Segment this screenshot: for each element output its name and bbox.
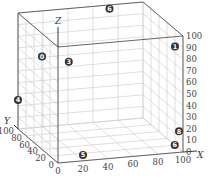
z-tick-label: 0	[186, 147, 191, 157]
data-point-label: 4	[16, 96, 21, 104]
z-tick-label: 60	[186, 77, 197, 87]
data-point-label: 6	[107, 5, 112, 13]
y-axis-label: Y	[4, 116, 11, 126]
z-tick-label: 100	[186, 31, 202, 41]
z-axis-label: Z	[54, 16, 62, 26]
x-tick-label: 0	[55, 166, 60, 176]
x-tick-label: 60	[128, 159, 139, 169]
z-tick-label: 90	[186, 43, 197, 53]
data-point-label: 8	[177, 128, 182, 136]
x-tick-label: 80	[153, 157, 164, 167]
data-point-label: 6	[172, 141, 177, 149]
grid-lines	[18, 2, 183, 163]
z-tick-label: 70	[186, 66, 197, 76]
y-tick-label: 100	[0, 126, 14, 136]
data-points: 03614586	[14, 5, 183, 160]
axis-ticks: 0204060801000204060801000102030405060708…	[0, 31, 202, 176]
data-point-label: 0	[40, 53, 45, 61]
z-tick-label: 80	[186, 54, 197, 64]
3d-scatter-plot: 0204060801000204060801000102030405060708…	[0, 0, 212, 185]
x-tick-label: 40	[103, 162, 114, 172]
x-axis-label: X	[196, 150, 204, 160]
z-tick-label: 30	[186, 112, 197, 122]
z-tick-label: 40	[186, 101, 197, 111]
x-tick-label: 20	[78, 164, 89, 174]
data-point-label: 5	[81, 151, 86, 159]
z-tick-label: 20	[186, 124, 197, 134]
z-tick-label: 50	[186, 89, 197, 99]
data-point-label: 3	[66, 58, 71, 66]
y-tick-label: 0	[49, 160, 54, 170]
data-point-label: 1	[173, 43, 178, 51]
z-tick-label: 10	[186, 135, 197, 145]
